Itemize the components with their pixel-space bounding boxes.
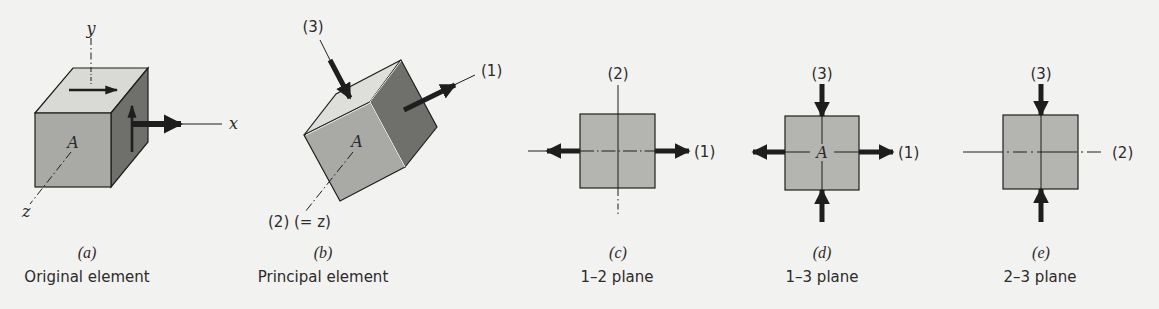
panel-a-caption: Original element [24, 268, 149, 286]
panel-e-2-3-plane: (3) (2) (e) 2–3 plane [963, 65, 1133, 286]
axis-3-label: (3) [302, 18, 323, 36]
stress-element-figure: y x z A (a) Original element [0, 0, 1159, 309]
axis-2-label: (2) [607, 65, 628, 83]
point-a-label: A [65, 133, 79, 152]
point-a-label: A [349, 132, 363, 151]
axis-1-label: (1) [481, 62, 502, 80]
panel-b-principal-element: (3) (1) (2) (= z) A (b) Principal elemen… [258, 18, 503, 286]
axis-1-label: (1) [694, 143, 715, 161]
axis-1-line [452, 75, 475, 86]
axis-2-label: (2) [1112, 144, 1133, 162]
panel-d-1-3-plane: A (3) (1) (d) 1–3 plane [753, 65, 919, 286]
panel-c-caption: 1–2 plane [581, 268, 654, 286]
axis-3-label: (3) [811, 65, 832, 83]
panel-d-caption: 1–3 plane [786, 268, 859, 286]
panel-e-letter: (e) [1032, 244, 1050, 262]
x-axis-label: x [229, 114, 238, 133]
panel-e-caption: 2–3 plane [1004, 268, 1077, 286]
panel-b-letter: (b) [314, 244, 333, 262]
panel-b-caption: Principal element [258, 268, 389, 286]
panel-d-letter: (d) [813, 244, 832, 262]
figure-stage: y x z A (a) Original element [0, 0, 1159, 309]
axis-3-label: (3) [1030, 65, 1051, 83]
panel-c-letter: (c) [609, 244, 627, 262]
y-axis-label: y [85, 19, 96, 38]
axis-2-label: (2) (= z) [268, 213, 331, 231]
panel-a-original-element: y x z A (a) Original element [21, 19, 238, 286]
panel-c-1-2-plane: (2) (1) (c) 1–2 plane [528, 65, 715, 286]
axis-3-line [320, 40, 331, 62]
panel-a-letter: (a) [78, 244, 97, 262]
z-axis-label: z [21, 202, 31, 221]
axis-1-label: (1) [898, 144, 919, 162]
point-a-label: A [814, 143, 828, 162]
